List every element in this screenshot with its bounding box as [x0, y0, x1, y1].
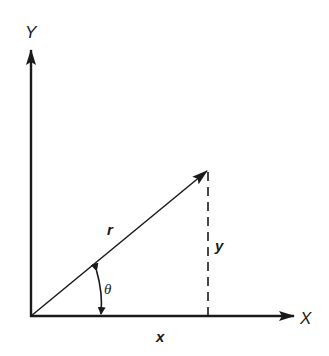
y-axis-label: Y [25, 23, 38, 42]
y-component-label: y [214, 237, 224, 254]
x-axis-label: X [299, 309, 312, 328]
r-label: r [107, 221, 114, 238]
theta-label: θ [104, 281, 112, 297]
radius-vector [31, 171, 207, 316]
theta-arc [97, 271, 102, 315]
coordinate-diagram: Y X r y x θ [0, 0, 329, 356]
x-component-label: x [155, 328, 165, 345]
